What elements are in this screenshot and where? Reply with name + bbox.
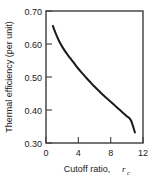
- y-tick-label-4: 0.30: [24, 139, 42, 149]
- x-axis-title-text: Cutoff ratio,: [64, 164, 110, 174]
- x-tick-label-1: 4: [76, 148, 81, 158]
- x-tick-label-2: 8: [108, 148, 113, 158]
- y-tick-label-1: 0.60: [24, 40, 42, 50]
- x-tick-label-3: 12: [138, 148, 148, 158]
- x-tick-label-0: 0: [43, 148, 48, 158]
- y-tick-label-0: 0.70: [24, 7, 42, 17]
- x-axis-title: Cutoff ratio, r c: [64, 164, 130, 176]
- y-axis-title: Thermal efficiency (per unit): [4, 21, 14, 132]
- x-axis-title-subscript: c: [127, 169, 130, 176]
- x-axis-title-symbol: r: [122, 164, 126, 174]
- x-axis-tick-labels: 0 4 8 12: [43, 148, 148, 158]
- thermal-efficiency-line-chart: 0.70 0.60 0.50 0.40 0.30 0 4 8 12 Cutoff…: [0, 0, 161, 184]
- y-tick-label-3: 0.40: [24, 106, 42, 116]
- chart-figure: 0.70 0.60 0.50 0.40 0.30 0 4 8 12 Cutoff…: [0, 0, 161, 184]
- y-tick-label-2: 0.50: [24, 73, 42, 83]
- y-axis-tick-labels: 0.70 0.60 0.50 0.40 0.30: [24, 7, 42, 149]
- plot-area-background: [46, 11, 143, 143]
